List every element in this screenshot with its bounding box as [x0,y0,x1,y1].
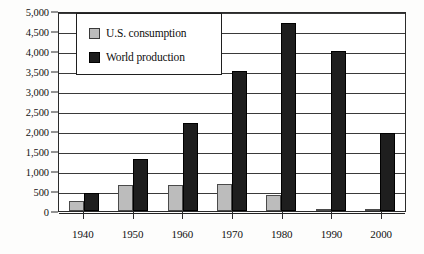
y-axis-tick-mark [51,32,58,33]
legend-item-world-production: World production [89,45,213,69]
chart-legend: U.S. consumption World production [76,13,222,75]
bar-group [356,13,405,211]
legend-swatch-world-production [89,52,100,63]
y-axis: 05001,0001,5002,0002,5003,0003,5004,0004… [0,0,58,220]
x-axis-tick-label: 1990 [321,228,343,240]
y-axis-tick-mark [51,72,58,73]
x-axis-group: 1960 [157,214,207,254]
y-axis-tick-mark [51,192,58,193]
y-axis-tick-mark [51,12,58,13]
x-axis-tick-mark [331,212,332,219]
y-axis-tick-label: 3,000 [26,87,49,98]
bar-us-consumption [316,209,331,211]
x-axis-tick-mark [282,212,283,219]
y-axis-tick-mark [51,52,58,53]
x-axis-group: 1950 [108,214,158,254]
x-axis-tick-mark [381,212,382,219]
bar-world-production [133,159,148,211]
x-axis-group: 1980 [257,214,307,254]
y-axis-tick-mark [51,92,58,93]
bar-world-production [232,71,247,211]
legend-item-us-consumption: U.S. consumption [89,21,213,45]
x-axis-tick-label: 1980 [271,228,293,240]
bar-us-consumption [69,201,84,211]
x-axis-tick-mark [232,212,233,219]
y-axis-tick-label: 0 [44,207,49,218]
y-axis-tick-mark [51,112,58,113]
x-axis-tick-mark [133,212,134,219]
y-axis-tick-label: 1,000 [26,167,49,178]
x-axis-group: 2000 [356,214,406,254]
x-axis-tick-label: 1970 [221,228,243,240]
x-axis: 1940195019601970198019902000 [58,214,406,254]
y-axis-tick-label: 5,000 [26,7,49,18]
x-axis-group: 1990 [307,214,357,254]
y-axis-tick-label: 1,500 [26,147,49,158]
bar-world-production [331,51,346,211]
legend-label-world-production: World production [106,51,185,63]
bar-us-consumption [168,185,183,211]
x-axis-tick-label: 1950 [122,228,144,240]
legend-label-us-consumption: U.S. consumption [106,27,186,39]
y-axis-tick-label: 2,500 [26,107,49,118]
y-axis-tick-mark [51,152,58,153]
x-axis-tick-label: 1940 [72,228,94,240]
y-axis-tick-label: 500 [34,187,49,198]
bar-us-consumption [365,209,380,211]
y-axis-tick-mark [51,212,58,213]
y-axis-tick-label: 4,500 [26,27,49,38]
bar-group [306,13,355,211]
y-axis-tick-mark [51,132,58,133]
bar-world-production [281,23,296,211]
bar-chart: 05001,0001,5002,0002,5003,0003,5004,0004… [0,0,424,254]
bar-world-production [183,123,198,211]
bar-world-production [84,193,99,211]
bar-group [257,13,306,211]
y-axis-tick-mark [51,172,58,173]
y-axis-tick-label: 4,000 [26,47,49,58]
bar-us-consumption [118,185,133,211]
x-axis-group: 1940 [58,214,108,254]
x-axis-tick-mark [83,212,84,219]
legend-swatch-us-consumption [89,28,100,39]
x-axis-tick-mark [182,212,183,219]
x-axis-tick-label: 2000 [370,228,392,240]
y-axis-tick-label: 3,500 [26,67,49,78]
bar-us-consumption [266,195,281,211]
bar-us-consumption [217,184,232,211]
y-axis-tick-label: 2,000 [26,127,49,138]
bar-world-production [380,133,395,211]
x-axis-tick-label: 1960 [171,228,193,240]
x-axis-group: 1970 [207,214,257,254]
